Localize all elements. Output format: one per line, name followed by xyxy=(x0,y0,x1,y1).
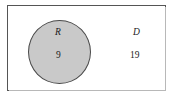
set-label-r: R xyxy=(55,28,61,38)
set-count-d: 19 xyxy=(130,51,140,61)
set-count-r: 9 xyxy=(56,51,61,61)
set-label-d: D xyxy=(133,28,140,38)
universal-set-rectangle: R 9 D 19 xyxy=(7,5,166,91)
venn-diagram-figure: R 9 D 19 xyxy=(0,0,174,99)
